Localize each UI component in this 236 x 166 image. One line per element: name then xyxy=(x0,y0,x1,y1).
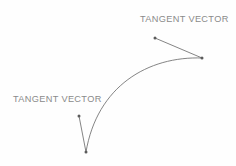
curve-end-point-marker xyxy=(201,57,204,60)
tangent-vector-label-left: TANGENT VECTOR xyxy=(13,95,102,104)
tangent-vector-label-right: TANGENT VECTOR xyxy=(140,15,229,24)
tangent-right-tip-point-marker xyxy=(154,37,157,40)
curve-path xyxy=(86,58,202,152)
figure-artwork xyxy=(0,0,236,166)
tangent-vector-right-shaft xyxy=(155,38,202,58)
tangent-vector-left-shaft xyxy=(79,116,86,152)
tangent-vector-figure: TANGENT VECTOR TANGENT VECTOR © 2014 Cen… xyxy=(0,0,236,166)
tangent-left-tip-point-marker xyxy=(78,115,81,118)
curve-start-point-marker xyxy=(85,151,88,154)
